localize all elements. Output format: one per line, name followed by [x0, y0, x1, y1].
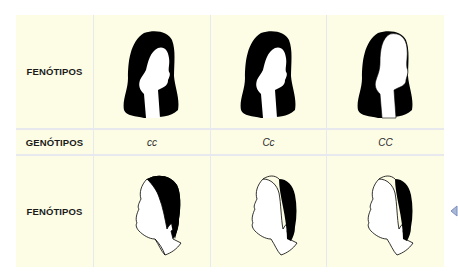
row-label-female-phenotypes: FENÓTIPOS — [16, 15, 93, 128]
row-label-male-phenotypes: FENÓTIPOS — [16, 156, 93, 267]
female-head-receding-hair-icon — [356, 30, 416, 120]
genotype-cell-CC: CC — [327, 129, 444, 155]
female-head-full-hair-icon — [122, 30, 182, 120]
genotype-cell-cc: cc — [94, 129, 210, 155]
male-head-bald-icon — [361, 173, 417, 259]
male-head-bald-icon — [245, 173, 301, 259]
row-label-genotypes: GENÓTIPOS — [16, 129, 93, 155]
female-head-full-hair-icon — [239, 30, 299, 120]
male-head-full-hair-icon — [129, 173, 185, 259]
left-triangle-icon[interactable] — [449, 205, 458, 217]
genotype-phenotype-table: FENÓTIPOS GENÓTIPOS FENÓTIPOS cc Cc CC — [16, 15, 444, 267]
genotype-cell-Cc: Cc — [211, 129, 326, 155]
